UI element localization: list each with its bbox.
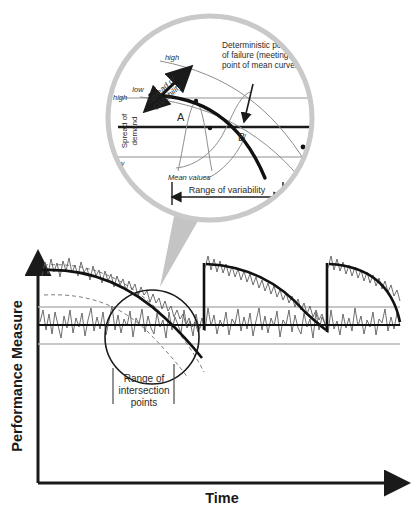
label-point-a: A <box>177 111 185 123</box>
range-of-intersection-measure: Range of intersection points <box>113 364 174 408</box>
range-of-intersection-line1: Range of <box>124 373 165 384</box>
mean-values-label: Mean values <box>168 173 211 182</box>
range-of-intersection-line2: intersection <box>118 385 169 396</box>
x-axis-title: Time <box>205 490 239 506</box>
svg-text:of failure (meeting: of failure (meeting <box>222 50 289 60</box>
svg-text:demand: demand <box>130 117 139 146</box>
point-marker-mean-top <box>194 99 198 103</box>
magnifier-lens: high low Spread of Capability high low S… <box>108 16 322 220</box>
capability-low-label: low <box>132 85 144 94</box>
spread-of-demand-label: Spread of demand <box>120 113 139 148</box>
svg-text:Spread of: Spread of <box>120 113 129 148</box>
range-of-intersection-line3: points <box>131 397 158 408</box>
svg-text:Performance Measure: Performance Measure <box>9 300 25 452</box>
svg-text:point of mean curves): point of mean curves) <box>222 60 302 70</box>
main-chart: Range of intersection points Performance… <box>9 255 405 506</box>
range-of-variability-label: Range of variability <box>189 185 266 195</box>
capability-mean-cycle-3 <box>329 264 400 322</box>
demand-noise-signal <box>40 306 400 338</box>
figure-canvas: high low Spread of Capability high low S… <box>0 0 419 511</box>
y-axis-title: Performance Measure <box>9 300 25 452</box>
point-marker-b <box>208 126 212 130</box>
figure-svg: high low Spread of Capability high low S… <box>0 0 419 511</box>
label-point-b: B <box>238 131 245 143</box>
demand-high-label: high <box>113 93 127 102</box>
capability-high-label: high <box>165 53 179 62</box>
